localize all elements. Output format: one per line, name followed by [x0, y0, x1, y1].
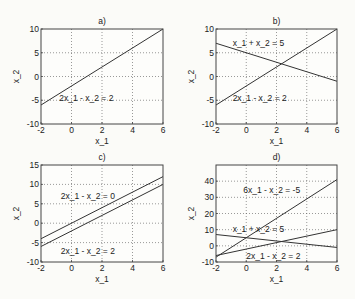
y-tick-label: 5	[34, 48, 39, 58]
y-axis-label: x_2	[186, 206, 196, 220]
y-tick-label: 40	[205, 176, 215, 186]
line-annotation: 2x_1 - x_2 = 2	[233, 93, 287, 103]
x-tick-label: 0	[69, 263, 74, 273]
x-tick-label: 2	[100, 263, 105, 273]
x-axis-label: x_1	[270, 274, 284, 284]
line-annotation: x_1 + x_2 = 5	[233, 38, 285, 48]
y-tick-label: 15	[30, 160, 40, 170]
line-annotation: 2x_1 - x_2 = 2	[59, 93, 113, 103]
y-tick-label: 0	[34, 72, 39, 82]
x-tick-label: 4	[304, 125, 309, 135]
x-tick-label: 2	[274, 263, 279, 273]
line-annotation: 6x_1 - x_2 = -5	[243, 185, 300, 195]
y-tick-label: 20	[205, 209, 215, 219]
subplot-title: c)	[98, 152, 105, 162]
y-axis-label: x_2	[186, 69, 196, 83]
y-tick-label: 0	[209, 241, 214, 251]
y-tick-label: 5	[34, 199, 39, 209]
x-tick-label: 6	[161, 125, 166, 135]
line-annotation: 2x_1 - x_2 = 0	[61, 191, 115, 201]
subplot-d: -20246-10010203040d)x_1x_26x_1 - x_2 = -…	[186, 152, 340, 284]
y-axis-label: x_2	[11, 206, 21, 220]
y-tick-label: -10	[27, 119, 40, 129]
line-annotation: 2x_1 - x_2 = 2	[61, 246, 115, 256]
y-tick-label: -10	[27, 257, 40, 267]
x-tick-label: 4	[130, 125, 135, 135]
y-tick-label: 0	[209, 72, 214, 82]
x-tick-label: 4	[304, 263, 309, 273]
subplot-b: -20246-10-50510b)x_1x_2x_1 + x_2 = 52x_1…	[186, 16, 340, 146]
y-tick-label: 30	[205, 192, 215, 202]
x-tick-label: 0	[244, 263, 249, 273]
y-tick-label: 0	[34, 218, 39, 228]
subplot-a: -20246-10-50510a)x_1x_22x_1 - x_2 = 2	[11, 16, 166, 146]
y-tick-label: -5	[31, 238, 39, 248]
line-annotation: x_1 + x_2 = 5	[233, 224, 285, 234]
y-tick-label: 10	[30, 179, 40, 189]
line-annotation: 2x_1 - x_2 = 2	[246, 251, 300, 261]
y-tick-label: -10	[202, 257, 215, 267]
y-tick-label: 10	[205, 24, 215, 34]
subplot-c: -20246-10-5051015c)x_1x_22x_1 - x_2 = 02…	[11, 152, 166, 284]
x-axis-label: x_1	[95, 136, 109, 146]
x-tick-label: 6	[161, 263, 166, 273]
x-tick-label: 6	[335, 125, 340, 135]
y-tick-label: 10	[205, 225, 215, 235]
y-tick-label: -10	[202, 119, 215, 129]
x-tick-label: 0	[244, 125, 249, 135]
subplot-title: d)	[273, 152, 281, 162]
subplot-title: b)	[273, 16, 281, 26]
y-tick-label: 5	[209, 48, 214, 58]
y-axis-label: x_2	[11, 69, 21, 83]
x-axis-label: x_1	[270, 136, 284, 146]
x-tick-label: 6	[335, 263, 340, 273]
x-tick-label: 2	[100, 125, 105, 135]
x-tick-label: 0	[69, 125, 74, 135]
y-tick-label: 10	[30, 24, 40, 34]
y-tick-label: -5	[31, 95, 39, 105]
subplot-title: a)	[98, 16, 106, 26]
x-tick-label: 2	[274, 125, 279, 135]
figure: -20246-10-50510a)x_1x_22x_1 - x_2 = 2 -2…	[0, 0, 355, 299]
x-axis-label: x_1	[95, 274, 109, 284]
y-tick-label: -5	[206, 95, 214, 105]
x-tick-label: 4	[130, 263, 135, 273]
